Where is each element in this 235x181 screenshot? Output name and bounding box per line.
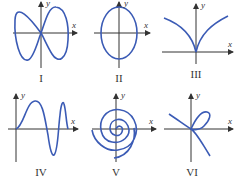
svg-text:y: y [123,0,128,8]
svg-text:y: y [195,90,200,100]
svg-text:x: x [70,116,75,126]
svg-text:x: x [143,20,148,30]
panel-label-V: V [96,166,136,178]
panel-label-IV: IV [21,166,61,178]
svg-text:x: x [148,116,153,126]
panel-VI: x y [164,90,233,162]
figure-canvas: x y x y x y x y x y x y [0,0,235,181]
panel-label-III: III [176,68,216,80]
svg-text:x: x [71,20,76,30]
panel-III: x y [162,0,233,64]
panel-IV: x y [8,90,78,162]
panel-II: x y [94,0,150,68]
svg-text:y: y [20,90,25,100]
panel-V: x y [92,90,156,162]
panel-label-II: II [99,72,139,84]
panel-I: x y [13,0,77,68]
svg-text:y: y [200,0,205,10]
svg-text:y: y [45,0,50,8]
panel-label-VI: VI [172,166,212,178]
svg-text:x: x [227,116,232,126]
svg-text:y: y [120,90,125,100]
panel-label-I: I [21,72,61,84]
svg-text:x: x [227,39,232,49]
